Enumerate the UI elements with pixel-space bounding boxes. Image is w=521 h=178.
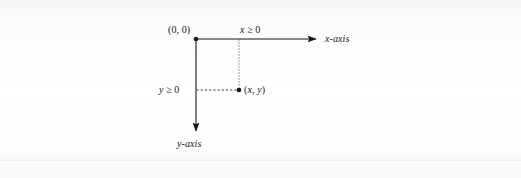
y-constraint-label: y ≥ 0: [159, 84, 179, 95]
origin-label: (0, 0): [168, 24, 190, 35]
coordinate-axes-figure: (0, 0) x ≥ 0 y ≥ 0 (x, y) x-axis y-axis: [0, 0, 521, 178]
x-axis-label: x-axis: [325, 33, 349, 44]
y-axis-label: y-axis: [177, 138, 201, 149]
figure-page: (0, 0) x ≥ 0 y ≥ 0 (x, y) x-axis y-axis: [0, 0, 521, 178]
xy-point-marker: [237, 88, 242, 93]
x-constraint-label: x ≥ 0: [240, 24, 260, 35]
origin-point-marker: [194, 37, 199, 42]
xy-point-label: (x, y): [244, 84, 265, 95]
